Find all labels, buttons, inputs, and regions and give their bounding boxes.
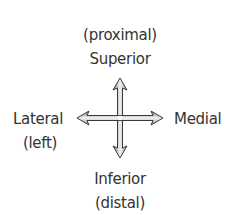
- four-way-arrow-icon: [0, 0, 236, 215]
- arrow-right-icon: [120, 111, 163, 125]
- arrow-down-icon: [113, 118, 127, 158]
- arrow-center-junction: [118, 116, 122, 120]
- arrow-up-icon: [113, 78, 127, 118]
- arrow-left-icon: [77, 111, 120, 125]
